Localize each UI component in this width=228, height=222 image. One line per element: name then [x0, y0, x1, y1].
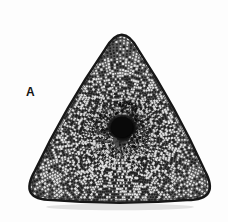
figure-plate: A: [0, 0, 228, 222]
specimen-shadow: [46, 204, 194, 210]
diatom-illustration: [0, 0, 228, 222]
panel-label-a: A: [26, 86, 35, 98]
